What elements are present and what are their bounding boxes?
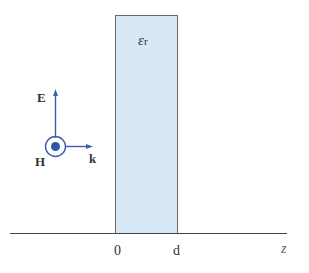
epsilon-subscript: r (144, 35, 148, 47)
permittivity-label: εr (138, 32, 148, 49)
z-axis-label: z (281, 241, 286, 257)
k-vector-arrow (65, 144, 93, 149)
diagram-canvas (0, 0, 309, 273)
tick-label-d: d (173, 243, 180, 259)
k-vector-label: k (89, 151, 96, 167)
tick-label-0: 0 (114, 243, 121, 259)
h-field-label: H (35, 154, 45, 170)
e-field-label: E (37, 90, 46, 106)
e-vector-arrow (53, 89, 58, 138)
h-out-of-page-icon (46, 137, 66, 157)
